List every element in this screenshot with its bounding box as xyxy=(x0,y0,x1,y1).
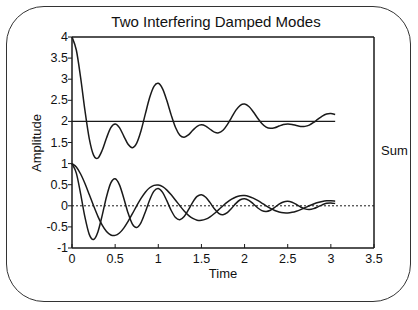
y-tick-label: 1.5 xyxy=(51,136,68,150)
x-tick-label: 3.5 xyxy=(365,252,382,266)
line-chart: Two Interfering Damped Modes 00.511.522.… xyxy=(0,0,418,310)
y-tick-label: 3 xyxy=(61,72,68,86)
y-axis-title: Amplitude xyxy=(29,114,44,172)
y-tick-label: 4 xyxy=(61,30,68,44)
y-tick-label: 2.5 xyxy=(51,93,68,107)
x-tick-label: 2 xyxy=(241,252,248,266)
x-tick-label: 1.5 xyxy=(193,252,210,266)
plot-area: 00.511.522.533.5-1-0.500.511.522.533.54 xyxy=(46,30,382,266)
y-tick-label: -1 xyxy=(57,241,68,255)
chart-title: Two Interfering Damped Modes xyxy=(111,13,320,30)
x-tick-label: 1 xyxy=(155,252,162,266)
x-tick-label: 3 xyxy=(327,252,334,266)
y-tick-label: 0 xyxy=(61,199,68,213)
y-tick-label: 1 xyxy=(61,157,68,171)
x-axis-title: Time xyxy=(209,266,237,281)
y-tick-label: -0.5 xyxy=(46,220,68,234)
x-tick-label: 0.5 xyxy=(106,252,123,266)
x-tick-label: 0 xyxy=(69,252,76,266)
series-line-2 xyxy=(72,37,335,158)
series-line-0 xyxy=(72,164,335,240)
y-tick-label: 0.5 xyxy=(51,178,68,192)
y-tick-label: 2 xyxy=(61,114,68,128)
sum-annotation: Sum xyxy=(381,143,408,158)
x-tick-label: 2.5 xyxy=(279,252,296,266)
y-tick-label: 3.5 xyxy=(51,51,68,65)
series-line-1 xyxy=(72,164,335,236)
